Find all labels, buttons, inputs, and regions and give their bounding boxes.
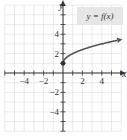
series	[61, 38, 123, 66]
legend-label: y = f(x)	[85, 11, 113, 21]
y-tick-label: −4	[49, 107, 59, 117]
y-axis-label: y	[58, 0, 64, 11]
legend: y = f(x)	[77, 7, 123, 25]
y-tick-label: −2	[49, 87, 59, 97]
y-tick-label: 2	[55, 49, 60, 59]
function-graph: −4−22442−2−4 y = f(x) x y	[0, 0, 127, 140]
x-tick-label: −4	[19, 76, 29, 86]
x-tick-label: 2	[80, 76, 85, 86]
x-tick-label: −2	[39, 76, 49, 86]
start-point	[61, 61, 66, 66]
x-tick-label: 4	[100, 76, 105, 86]
x-axis-label: x	[121, 68, 127, 79]
y-tick-label: 4	[55, 29, 60, 39]
